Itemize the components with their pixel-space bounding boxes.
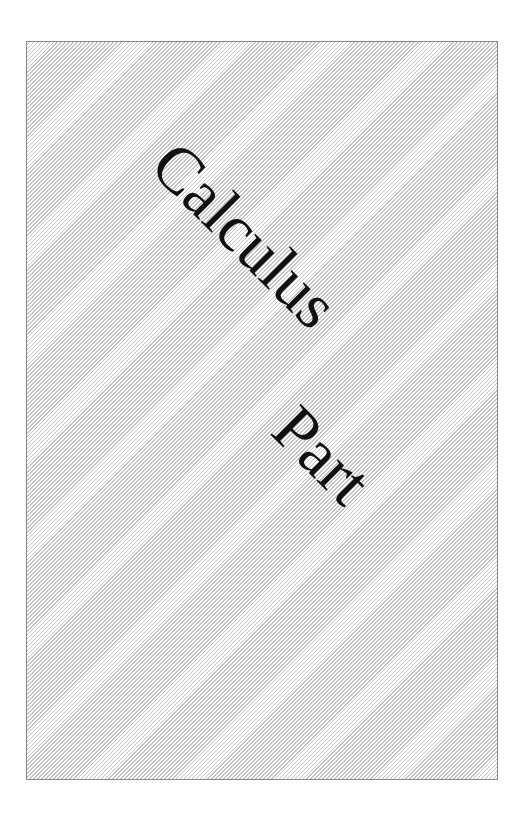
cover-panel xyxy=(26,41,498,780)
